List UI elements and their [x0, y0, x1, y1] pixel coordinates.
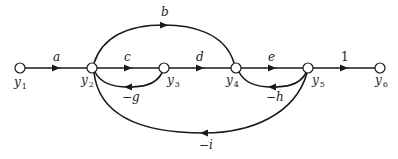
- svg-text:y6: y6: [374, 73, 388, 89]
- gain-label-e: e: [268, 50, 275, 64]
- svg-text:y4: y4: [225, 73, 239, 89]
- node-y4: y4: [225, 63, 241, 89]
- edge-y4-y5: e: [241, 50, 303, 72]
- edge-y3-y4: d: [169, 50, 231, 72]
- gain-label-d: d: [196, 50, 204, 64]
- gain-label-1: 1: [341, 50, 349, 64]
- edge-y1-y2: a: [25, 50, 87, 72]
- edge-y5-y6: 1: [313, 50, 375, 72]
- edge-y2-y3: c: [97, 50, 159, 72]
- node-y3: y3: [159, 63, 180, 89]
- gain-label-neg-i: −i: [199, 138, 213, 152]
- svg-text:y5: y5: [311, 73, 325, 89]
- gain-label-neg-g: −g: [122, 90, 140, 104]
- gain-label-neg-h: −h: [266, 90, 284, 104]
- node-y1: y1: [13, 63, 27, 91]
- svg-text:y3: y3: [166, 73, 180, 89]
- gain-label-c: c: [124, 50, 131, 64]
- svg-text:y1: y1: [13, 75, 27, 91]
- edge-y3-y2-neg-g: −g: [95, 72, 162, 104]
- gain-label-b: b: [161, 5, 169, 19]
- gain-label-a: a: [53, 50, 60, 64]
- svg-text:y2: y2: [80, 73, 94, 89]
- node-y6: y6: [374, 63, 388, 89]
- edge-y2-y4-b: b: [94, 5, 234, 63]
- signal-flow-graph: a c d e 1 b −g −h −i: [0, 0, 398, 159]
- edge-y5-y4-neg-h: −h: [239, 72, 306, 104]
